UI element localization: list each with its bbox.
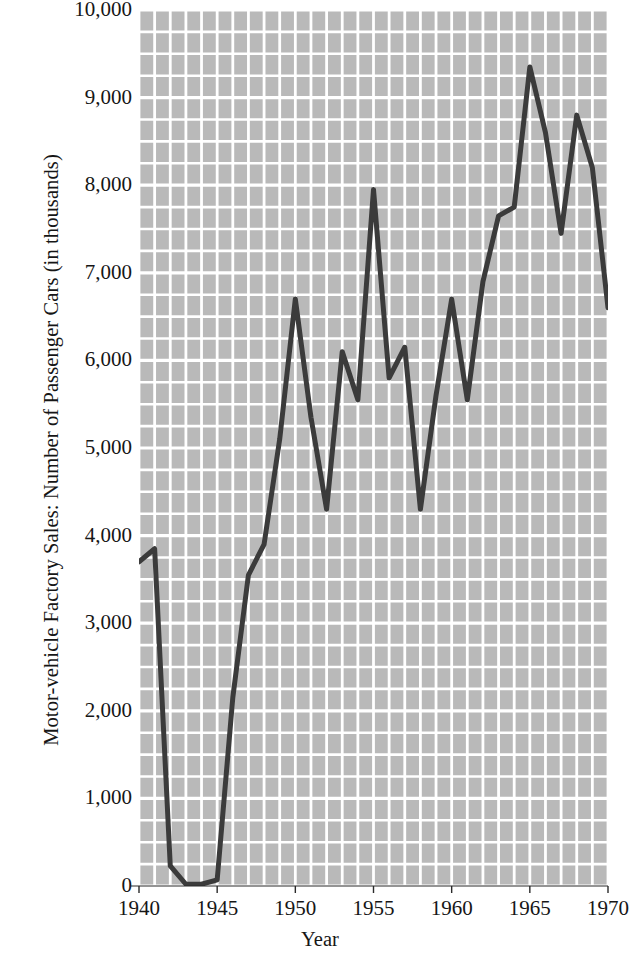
x-axis-title: Year <box>0 928 640 951</box>
x-tick-label: 1955 <box>334 896 414 920</box>
x-tick-label: 1940 <box>99 896 179 920</box>
x-tick-label: 1970 <box>568 896 640 920</box>
x-tick-label: 1965 <box>490 896 570 920</box>
x-tick-label: 1950 <box>255 896 335 920</box>
x-tick-labels: 1940194519501955196019651970 <box>0 0 640 969</box>
x-tick-label: 1960 <box>412 896 492 920</box>
x-tick-label: 1945 <box>177 896 257 920</box>
chart-figure: Motor-vehicle Factory Sales: Number of P… <box>0 0 640 969</box>
